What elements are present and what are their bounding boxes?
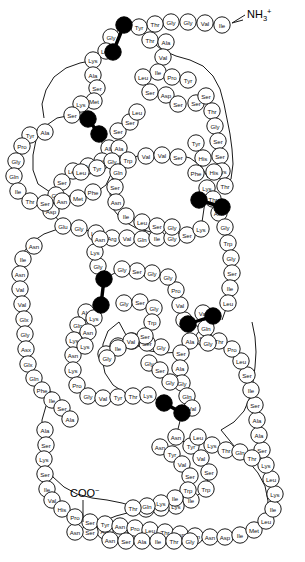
residue-label: Ile bbox=[155, 69, 162, 76]
residue-label: Asn bbox=[171, 434, 182, 441]
residue-label: Ser bbox=[92, 85, 101, 92]
residue-node: Asx bbox=[18, 341, 34, 357]
residue-node: Gly bbox=[71, 220, 87, 236]
residue-node: Glu bbox=[55, 218, 71, 234]
residue-node: Ser bbox=[129, 263, 145, 279]
residue-label: Thr bbox=[220, 183, 229, 190]
residue-label: Thr bbox=[150, 21, 159, 28]
residue-node: Asn bbox=[92, 231, 108, 247]
residue-label: Ser bbox=[204, 469, 213, 476]
residue-label: Tyr bbox=[101, 521, 109, 528]
residue-label: Lys bbox=[261, 462, 270, 469]
residue-label: Val bbox=[176, 302, 184, 309]
residue-node: Phe bbox=[188, 165, 204, 181]
residue-node: Ser bbox=[247, 397, 263, 413]
residue-label: Ser bbox=[67, 112, 76, 119]
residue-node: Ser bbox=[149, 218, 165, 234]
residue-node: Thr bbox=[142, 32, 158, 48]
residue-label: Gly bbox=[210, 123, 220, 130]
residue-label: Tyr bbox=[168, 451, 176, 458]
residue-label: Ser bbox=[250, 402, 259, 409]
residue-label: Gln bbox=[235, 449, 244, 456]
residue-label: Asn bbox=[105, 537, 116, 544]
residue-label: Gln bbox=[9, 173, 18, 180]
residue-label: Arg bbox=[107, 235, 116, 242]
residue-label: Met bbox=[73, 195, 83, 202]
cysteine-node bbox=[180, 316, 196, 332]
residue-node: Pro bbox=[67, 509, 83, 525]
residue-node: Asn bbox=[54, 193, 70, 209]
residue-label: Gly bbox=[203, 340, 213, 347]
residue-label: Pro bbox=[17, 143, 27, 150]
residue-label: Ile bbox=[154, 235, 161, 242]
residue-label: Lys bbox=[80, 343, 89, 350]
residue-label: Gly bbox=[165, 379, 175, 386]
residue-label: Ile bbox=[115, 345, 122, 352]
residue-label: Ser bbox=[125, 119, 134, 126]
residue-label: Leu bbox=[76, 169, 86, 176]
residue-node: Ala bbox=[37, 422, 53, 438]
residue-node: Ser bbox=[224, 265, 240, 281]
residue-node: Ser bbox=[198, 88, 214, 104]
residue-label: Phe bbox=[88, 189, 99, 196]
residue-label: Tyr bbox=[135, 24, 143, 31]
residue-label: Gln bbox=[137, 236, 146, 243]
residue-node: Gln bbox=[6, 168, 22, 184]
residue-node: Ser bbox=[107, 179, 123, 195]
residue-label: Pro bbox=[130, 525, 140, 532]
residue-label: Tyr bbox=[114, 394, 122, 401]
residue-label: Leu bbox=[132, 109, 142, 116]
residue-node: Asn bbox=[108, 194, 124, 210]
residue-label: Asn bbox=[155, 444, 166, 451]
residue-label: Gly bbox=[20, 331, 30, 338]
residue-node: Phe bbox=[85, 184, 101, 200]
residue-label: Ser bbox=[132, 268, 141, 275]
residue-label: Ser bbox=[242, 372, 251, 379]
residue-label: Gly bbox=[226, 255, 236, 262]
residue-node: Thr bbox=[147, 16, 163, 32]
residue-label: Ser bbox=[182, 232, 191, 239]
residue-label: Val bbox=[48, 497, 56, 504]
residue-label: Asn bbox=[70, 529, 81, 536]
residue-label: Lys bbox=[88, 57, 97, 64]
residue-label: Thr bbox=[128, 505, 137, 512]
residue-label: Gln bbox=[113, 169, 122, 176]
residue-label: Trp bbox=[124, 157, 134, 164]
residue-node: Lys bbox=[267, 486, 283, 502]
residue-label: Val bbox=[142, 153, 150, 160]
residue-node: Ala bbox=[37, 124, 53, 140]
residue-label: Asn bbox=[83, 329, 94, 336]
residue-label: Leu bbox=[236, 358, 246, 365]
residue-label: Asx bbox=[21, 346, 31, 353]
residue-label: Gly bbox=[163, 274, 173, 281]
residue-node: Asn bbox=[112, 518, 128, 534]
residue-label: Thr bbox=[25, 198, 34, 205]
residue-node: Ile bbox=[150, 533, 166, 549]
residue-label: Pro bbox=[70, 514, 80, 521]
residue-node: Leu bbox=[135, 69, 151, 85]
residue-node: Ile bbox=[214, 17, 230, 33]
residue-label: Leu bbox=[145, 527, 155, 534]
residue-label: Thr bbox=[207, 108, 216, 115]
residue-node: Val bbox=[138, 148, 154, 164]
residue-label: Ser bbox=[185, 473, 194, 480]
residue-label: Thr bbox=[128, 393, 137, 400]
cysteine-node bbox=[205, 308, 221, 324]
residue-label: Gly bbox=[106, 34, 116, 41]
residue-label: Gly bbox=[74, 225, 84, 232]
residue-node: Lys bbox=[153, 495, 169, 511]
residue-node: Tyr bbox=[188, 135, 204, 151]
residue-label: Glu bbox=[58, 223, 67, 230]
residue-node: Trp bbox=[220, 235, 236, 251]
residue-label: Val bbox=[201, 20, 209, 27]
residue-label: Trp bbox=[202, 486, 212, 493]
residue-label: Ile bbox=[123, 213, 130, 220]
residue-label: Gln bbox=[142, 503, 151, 510]
residue-node: Asp bbox=[217, 529, 233, 545]
residue-node: Val bbox=[197, 15, 213, 31]
residue-node: Asn bbox=[80, 324, 96, 340]
residue-node: Ser bbox=[142, 84, 158, 100]
n-terminus-superscript: + bbox=[267, 7, 272, 16]
residue-label: Ser bbox=[176, 350, 185, 357]
residue-node: Pro bbox=[14, 138, 30, 154]
